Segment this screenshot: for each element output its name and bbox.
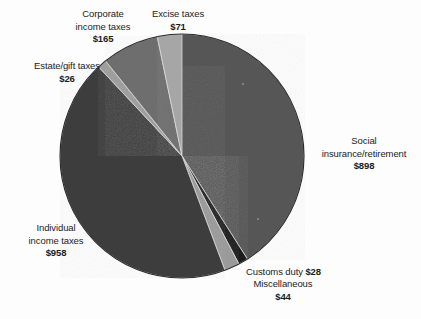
callout-individual-income-taxes: Individual income taxes $958	[8, 222, 104, 260]
callout-label-line1: Corporate	[60, 8, 146, 21]
callout-social-insurance-retirement: Social insurance/retirement $898	[312, 135, 416, 173]
callout-label-line1: Social	[312, 135, 416, 148]
callout-value: $958	[8, 247, 104, 260]
callout-miscellaneous: Miscellaneous $44	[228, 278, 338, 303]
callout-label-line2: insurance/retirement	[312, 148, 416, 161]
callout-label-line2: income taxes	[8, 235, 104, 248]
callout-value: $26	[18, 73, 116, 86]
callout-estate-gift-taxes: Estate/gift taxes $26	[18, 60, 116, 85]
callout-value: $898	[312, 160, 416, 173]
callout-customs-duty: Customs duty $28	[246, 266, 386, 279]
callout-value: $44	[228, 291, 338, 304]
scan-speck	[257, 218, 259, 220]
callout-label-line1: Estate/gift taxes	[18, 60, 116, 73]
callout-label-line1: Customs duty	[246, 266, 303, 277]
callout-value: $71	[137, 21, 219, 34]
callout-value: $165	[60, 33, 146, 46]
pie-chart-page: Corporate income taxes $165 Excise taxes…	[0, 0, 421, 319]
callout-corporate-income-taxes: Corporate income taxes $165	[60, 8, 146, 46]
callout-excise-taxes: Excise taxes $71	[137, 8, 219, 33]
callout-label-line2: income taxes	[60, 21, 146, 34]
callout-label-line1: Miscellaneous	[228, 278, 338, 291]
callout-value: $28	[305, 266, 321, 277]
scan-speck	[242, 83, 244, 85]
callout-label-line1: Individual	[8, 222, 104, 235]
callout-label-line1: Excise taxes	[137, 8, 219, 21]
